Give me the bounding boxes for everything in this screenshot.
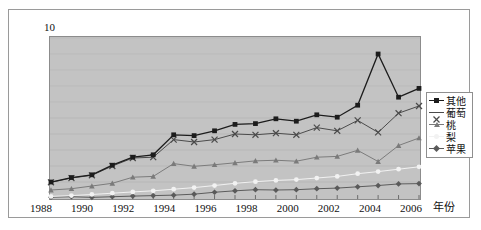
legend-marker-diamond-icon	[429, 144, 444, 154]
legend-item-0: 其他	[429, 95, 470, 107]
x-tick-2000: 2000	[271, 203, 305, 214]
legend-label: 其他	[446, 96, 466, 107]
x-tick-2006: 2006	[394, 203, 428, 214]
x-tick-1988: 1988	[24, 203, 58, 214]
x-axis-title: 年份	[433, 202, 455, 214]
legend-label: 桃	[446, 120, 456, 131]
legend-item-2: 桃	[429, 119, 470, 131]
plot-area	[49, 36, 421, 200]
x-tick-1990: 1990	[65, 203, 99, 214]
legend-item-1: 葡萄	[429, 107, 470, 119]
x-tick-1994: 1994	[147, 203, 181, 214]
x-tick-1998: 1998	[230, 203, 264, 214]
legend-marker-square-icon	[429, 96, 444, 106]
legend-marker-cross-icon	[429, 108, 444, 118]
x-tick-1992: 1992	[106, 203, 140, 214]
figure-frame: 012345678910 198819901992199419961998200…	[8, 9, 470, 218]
x-tick-1996: 1996	[188, 203, 222, 214]
legend-item-4: 苹果	[429, 143, 470, 155]
chart-legend: 其他葡萄桃梨苹果	[426, 92, 473, 158]
legend-label: 梨	[446, 132, 456, 143]
data-series-layer	[50, 37, 420, 199]
x-tick-2004: 2004	[353, 203, 387, 214]
legend-item-3: 梨	[429, 131, 470, 143]
y-tick-10: 10	[35, 22, 55, 33]
legend-label: 苹果	[446, 144, 466, 155]
legend-marker-circle-icon	[429, 132, 444, 142]
legend-marker-triangle-icon	[429, 120, 444, 130]
x-tick-2002: 2002	[312, 203, 346, 214]
legend-label: 葡萄	[446, 108, 466, 119]
chart-figure: 012345678910 198819901992199419961998200…	[0, 0, 481, 230]
